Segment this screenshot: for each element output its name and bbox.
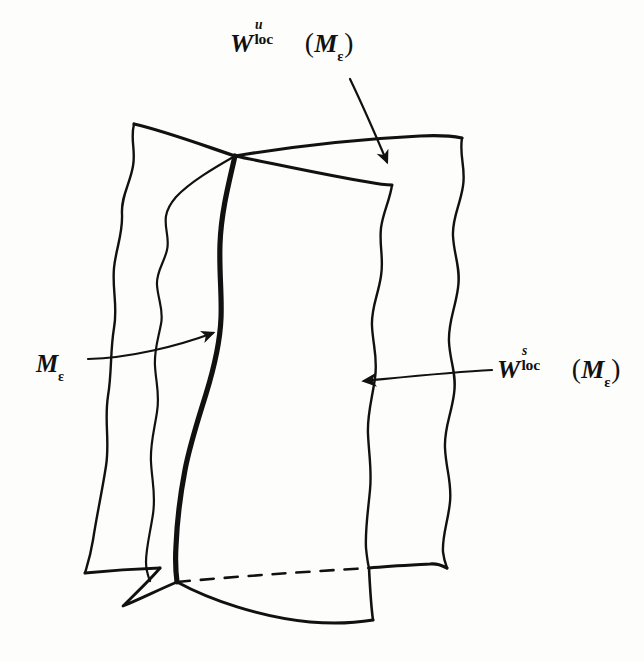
label-w-stable-loc: Wsloc(Mε) xyxy=(497,352,621,387)
label-w-unstable-loc: Wuloc(Mε) xyxy=(230,26,354,61)
stable-surface-skirt-right-edge xyxy=(369,568,373,620)
label-wu-open-paren: ( xyxy=(305,27,314,58)
unstable-surface-top-edge xyxy=(134,124,235,156)
stable-surface-bottom-front-edge xyxy=(369,564,447,568)
stable-surface-front-crease-line xyxy=(366,185,392,568)
label-wu-manifold: M xyxy=(314,29,337,58)
label-ws-close-paren: ) xyxy=(611,353,620,384)
label-wu-w: W xyxy=(230,29,253,58)
label-me-manifold: M xyxy=(36,350,59,377)
m-epsilon-intersection-curve xyxy=(176,156,235,582)
figure-canvas: Wuloc(Mε) Wsloc(Mε) Mε xyxy=(0,0,644,661)
label-wu-epsilon: ε xyxy=(337,48,344,64)
unstable-surface-bottom-flap xyxy=(123,568,177,606)
label-ws-w: W xyxy=(497,355,520,384)
arrow-to-stable-surface xyxy=(364,370,492,381)
arrow-to-m-epsilon-curve xyxy=(88,333,213,359)
label-ws-manifold: M xyxy=(581,355,604,384)
label-wu-scripts: uloc xyxy=(254,26,303,52)
label-wu-close-paren: ) xyxy=(344,27,353,58)
unstable-surface-left-edge xyxy=(85,124,134,573)
arrow-to-unstable-surface xyxy=(350,79,387,162)
label-me-epsilon: ε xyxy=(58,369,64,384)
manifold-diagram xyxy=(0,0,644,661)
label-ws-open-paren: ( xyxy=(572,353,581,384)
stable-surface-top-front-edge xyxy=(235,156,392,185)
stable-surface-top-back-edge xyxy=(235,136,462,156)
unstable-surface-bottom-edge xyxy=(85,568,160,573)
label-ws-epsilon: ε xyxy=(604,374,611,390)
stable-surface-bottom-skirt xyxy=(177,582,373,623)
label-m-epsilon: Mε xyxy=(36,351,65,381)
label-wu-subscript: loc xyxy=(254,31,272,47)
label-ws-subscript: loc xyxy=(521,357,539,373)
stable-surface-hidden-bottom-edge xyxy=(177,568,369,582)
stable-surface-right-edge xyxy=(443,138,464,568)
label-ws-scripts: sloc xyxy=(521,352,570,378)
